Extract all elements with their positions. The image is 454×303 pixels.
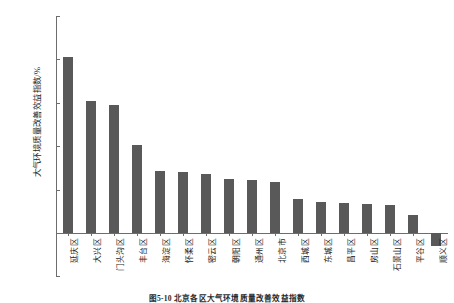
y-axis-title: 大气环境质量改善效益指数/% [30,20,42,225]
x-tick-label: 石景山区 [394,238,402,294]
x-tick-label: 密云区 [209,238,217,294]
x-tick-label: 通州区 [256,238,264,294]
x-tick-label: 顺义区 [440,238,448,294]
x-tick-mark [91,233,92,236]
bar [201,174,211,233]
x-tick-mark [413,233,414,236]
x-tick-mark [137,233,138,236]
x-tick-label: 北京市 [279,238,287,294]
bar [224,179,234,233]
x-tick-label: 大兴区 [94,238,102,294]
bar [247,180,257,233]
x-tick-label: 朝阳区 [233,238,241,294]
x-tick-mark [160,233,161,236]
x-tick-label: 昌平区 [348,238,356,294]
y-tick-mark [56,59,60,60]
x-tick-mark [367,233,368,236]
x-tick-mark [206,233,207,236]
y-tick-mark [56,16,60,17]
x-tick-mark [298,233,299,236]
bar [86,101,96,233]
x-tick-label: 丰台区 [140,238,148,294]
x-tick-label: 平谷区 [417,238,425,294]
x-tick-mark [229,233,230,236]
x-tick-label: 怀柔区 [186,238,194,294]
x-tick-mark [252,233,253,236]
bar [270,182,280,233]
y-tick-mark [56,233,60,234]
x-tick-label: 房山区 [371,238,379,294]
x-tick-label: 海淀区 [163,238,171,294]
x-tick-mark [68,233,69,236]
y-tick-mark [56,103,60,104]
y-tick-mark [56,276,60,277]
bar [63,57,73,233]
x-tick-mark [344,233,345,236]
bar [178,172,188,233]
x-tick-label: 西城区 [302,238,310,294]
x-tick-label: 门头沟区 [117,238,125,294]
bar [316,202,326,233]
figure-caption: 图5-10 北京各区大气环境质量改善效益指数 [0,292,454,303]
bar [293,199,303,233]
x-tick-mark [275,233,276,236]
x-tick-mark [114,233,115,236]
x-tick-label: 东城区 [325,238,333,294]
y-tick-mark [56,190,60,191]
bar [408,215,418,233]
bar [339,203,349,233]
bar [132,145,142,233]
bar [385,205,395,233]
x-tick-mark [183,233,184,236]
x-tick-label: 延庆区 [71,238,79,294]
y-tick-mark [56,146,60,147]
x-tick-mark [321,233,322,236]
bar [155,171,165,233]
x-tick-mark [390,233,391,236]
bar [109,105,119,233]
bar [362,204,372,233]
